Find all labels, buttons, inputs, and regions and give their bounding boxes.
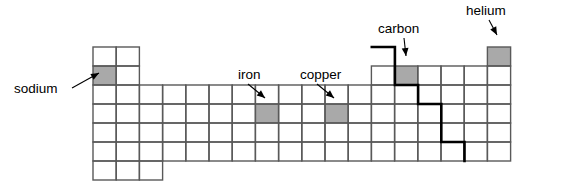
grid-cell	[441, 104, 464, 123]
shaded-cell-copper	[325, 104, 348, 123]
grid-cell	[395, 104, 418, 123]
grid-cell	[232, 123, 255, 142]
grid-cell	[371, 104, 394, 123]
arrowhead-copper	[326, 90, 334, 98]
grid-cell	[418, 66, 441, 85]
grid-cell	[139, 123, 162, 142]
grid-cell	[139, 85, 162, 104]
grid-cell	[302, 104, 325, 123]
grid-cell	[209, 85, 232, 104]
grid-cell	[418, 85, 441, 104]
grid-cell	[163, 142, 186, 161]
grid-cell	[116, 47, 139, 66]
grid-cell	[209, 123, 232, 142]
grid-cell	[371, 85, 394, 104]
grid-cell	[371, 142, 394, 161]
grid-cell	[116, 161, 139, 180]
grid-cell	[441, 123, 464, 142]
grid-cell	[209, 142, 232, 161]
grid-cell	[487, 104, 510, 123]
callout-leaders-layer	[72, 20, 497, 98]
shaded-cell-helium	[487, 47, 510, 66]
grid-cell	[348, 142, 371, 161]
grid-cell	[116, 142, 139, 161]
grid-cell	[139, 104, 162, 123]
grid-cell	[395, 123, 418, 142]
grid-cell	[255, 123, 278, 142]
grid-cell	[163, 104, 186, 123]
diagram-canvas: sodiumironcoppercarbonhelium	[0, 0, 564, 191]
shaded-cell-iron	[255, 104, 278, 123]
grid-cell	[464, 123, 487, 142]
grid-cell	[93, 85, 116, 104]
grid-cell	[464, 66, 487, 85]
grid-cell	[116, 85, 139, 104]
label-copper: copper	[300, 67, 342, 82]
grid-cell	[93, 104, 116, 123]
label-helium: helium	[466, 3, 506, 18]
grid-cell	[186, 123, 209, 142]
grid-cell	[418, 104, 441, 123]
grid-cell	[279, 85, 302, 104]
grid-cell	[186, 142, 209, 161]
grid-cell	[116, 123, 139, 142]
grid-cell	[279, 142, 302, 161]
grid-cell	[487, 85, 510, 104]
grid-cell	[186, 104, 209, 123]
periodic-table-diagram: sodiumironcoppercarbonhelium	[0, 0, 564, 191]
grid-cell	[418, 123, 441, 142]
label-sodium: sodium	[14, 81, 58, 96]
grid-cell	[279, 104, 302, 123]
grid-cell	[139, 161, 162, 180]
shaded-cell-carbon	[395, 66, 418, 85]
arrowhead-iron	[257, 90, 265, 98]
grid-cell	[116, 66, 139, 85]
grid-cell	[464, 85, 487, 104]
grid-cell	[348, 123, 371, 142]
grid-cell	[93, 123, 116, 142]
label-iron: iron	[238, 67, 261, 82]
grid-cell	[302, 142, 325, 161]
grid-cell	[371, 123, 394, 142]
grid-cell	[464, 142, 487, 161]
grid-cell	[279, 123, 302, 142]
grid-cell	[139, 142, 162, 161]
callout-labels-layer: sodiumironcoppercarbonhelium	[14, 3, 506, 96]
grid-cell	[441, 85, 464, 104]
arrowhead-carbon	[402, 48, 409, 56]
grid-cell	[487, 66, 510, 85]
grid-cell	[464, 104, 487, 123]
grid-cell	[441, 142, 464, 161]
grid-cell	[325, 142, 348, 161]
grid-cell	[487, 142, 510, 161]
grid-cell	[209, 104, 232, 123]
grid-cell	[93, 47, 116, 66]
grid-cell	[302, 123, 325, 142]
grid-cell	[487, 123, 510, 142]
grid-cell	[325, 123, 348, 142]
grid-cell	[441, 66, 464, 85]
label-carbon: carbon	[378, 21, 419, 36]
grid-cell	[232, 142, 255, 161]
grid-cell	[348, 85, 371, 104]
grid-cell	[163, 123, 186, 142]
grid-cell	[371, 66, 394, 85]
grid-cell	[418, 142, 441, 161]
grid-cell	[348, 104, 371, 123]
grid-cell	[186, 85, 209, 104]
grid-cell	[163, 85, 186, 104]
grid-cell	[255, 142, 278, 161]
grid-cell	[93, 161, 116, 180]
grid-cell	[93, 142, 116, 161]
grid-cell	[116, 104, 139, 123]
grid-cell	[395, 142, 418, 161]
grid-cell	[232, 104, 255, 123]
grid-cell	[395, 85, 418, 104]
